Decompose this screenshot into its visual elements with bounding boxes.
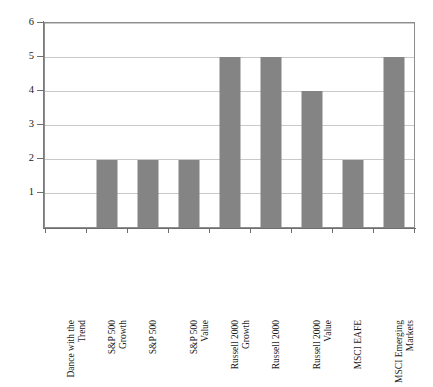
y-axis-line xyxy=(43,21,44,229)
bar-slot xyxy=(127,23,168,228)
x-axis-label-line1: S&P 500 xyxy=(107,320,117,354)
y-axis-tick xyxy=(37,90,44,91)
x-axis-tick xyxy=(45,228,46,233)
y-axis-tick-label: 1 xyxy=(14,186,34,197)
x-axis-label-slot: Russell 2000Value xyxy=(291,232,332,322)
x-axis-tick xyxy=(168,228,169,233)
y-axis-tick xyxy=(37,56,44,57)
x-axis-label: S&P 500 xyxy=(148,320,159,387)
x-axis-label: Dance with theTrend xyxy=(66,320,87,387)
bar[interactable] xyxy=(137,160,158,228)
bar[interactable] xyxy=(260,57,281,228)
x-axis-label-slot: Dance with theTrend xyxy=(45,232,86,322)
x-axis-labels: Dance with theTrendS&P 500GrowthS&P 500S… xyxy=(45,232,414,322)
bar[interactable] xyxy=(96,160,117,228)
y-axis-tick xyxy=(37,192,44,193)
x-axis-line xyxy=(43,228,416,229)
x-axis-label: Russell 2000 xyxy=(271,320,282,387)
x-axis-tick xyxy=(332,228,333,233)
bar-slot xyxy=(45,23,86,228)
y-axis-tick-label: 6 xyxy=(14,16,34,27)
bar[interactable] xyxy=(219,57,240,228)
x-axis-label: Russell 2000Growth xyxy=(230,320,251,387)
bar[interactable] xyxy=(301,91,322,228)
y-axis-tick-label: 4 xyxy=(14,84,34,95)
x-axis-label: Russell 2000Value xyxy=(312,320,333,387)
x-axis-tick xyxy=(291,228,292,233)
x-axis-label-line1: Russell 2000 xyxy=(271,320,281,369)
x-axis-tick xyxy=(373,228,374,233)
y-axis-tick xyxy=(37,22,44,23)
bar-slot xyxy=(209,23,250,228)
y-axis-tick xyxy=(37,158,44,159)
bars-group xyxy=(45,23,414,228)
x-axis-tick xyxy=(414,228,415,233)
bar-slot xyxy=(86,23,127,228)
x-axis-label-line2: Value xyxy=(199,320,210,387)
x-axis-label-line2: Growth xyxy=(240,320,251,387)
bar-slot xyxy=(168,23,209,228)
x-axis-label-slot: S&P 500 xyxy=(127,232,168,322)
x-axis-label-line2: Markets xyxy=(404,320,415,387)
x-axis-label-slot: S&P 500Growth xyxy=(86,232,127,322)
y-axis-tick-label: 5 xyxy=(14,50,34,61)
x-axis-label-line1: MSCI EAFE xyxy=(353,320,363,369)
x-axis-label-slot: MSCI EmergingMarkets xyxy=(373,232,414,322)
y-axis-tick xyxy=(37,124,44,125)
x-axis-label: S&P 500Growth xyxy=(107,320,128,387)
x-axis-label-line1: Dance with the xyxy=(66,320,76,378)
x-axis-label-line1: Russell 2000 xyxy=(312,320,322,369)
bar[interactable] xyxy=(383,57,404,228)
bar-slot xyxy=(291,23,332,228)
x-axis-label-slot: Russell 2000 xyxy=(250,232,291,322)
x-axis-label-line1: Russell 2000 xyxy=(230,320,240,369)
x-axis-label-line1: S&P 500 xyxy=(189,320,199,354)
x-axis-tick xyxy=(250,228,251,233)
x-axis-label-line2: Value xyxy=(322,320,333,387)
x-axis-label-line2: Trend xyxy=(76,320,87,387)
x-axis-tick xyxy=(86,228,87,233)
bar-slot xyxy=(332,23,373,228)
x-axis-label-slot: Russell 2000Growth xyxy=(209,232,250,322)
x-axis-label: MSCI EAFE xyxy=(353,320,364,387)
x-axis-tick xyxy=(209,228,210,233)
y-axis-tick-label: 3 xyxy=(14,118,34,129)
bar-slot xyxy=(373,23,414,228)
x-axis-label: S&P 500Value xyxy=(189,320,210,387)
x-axis-label-line1: MSCI Emerging xyxy=(394,320,404,383)
y-axis-tick-label: 2 xyxy=(14,152,34,163)
x-axis-label-slot: MSCI EAFE xyxy=(332,232,373,322)
x-axis-label-slot: S&P 500Value xyxy=(168,232,209,322)
bar[interactable] xyxy=(342,160,363,228)
x-axis-tick xyxy=(127,228,128,233)
x-axis-label-line1: S&P 500 xyxy=(148,320,158,354)
x-axis-label-line2: Growth xyxy=(117,320,128,387)
bar-slot xyxy=(250,23,291,228)
bar[interactable] xyxy=(178,160,199,228)
x-axis-label: MSCI EmergingMarkets xyxy=(394,320,415,387)
